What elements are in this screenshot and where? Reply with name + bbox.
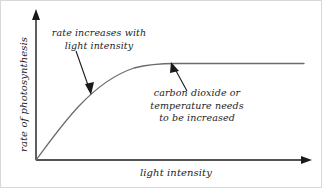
y-axis-label: rate of photosynthesis [18, 31, 29, 159]
growth-annotation-arrow [76, 51, 94, 95]
x-axis-label: light intensity [119, 167, 233, 178]
x-axis [36, 156, 312, 164]
photosynthesis-light-response-figure: rate increases with light intensity carb… [0, 0, 322, 188]
limiting-annotation-text: carbon dioxide or temperature needs to b… [140, 87, 254, 125]
growth-annotation-text: rate increases with light intensity [45, 27, 153, 52]
y-axis [32, 9, 40, 160]
